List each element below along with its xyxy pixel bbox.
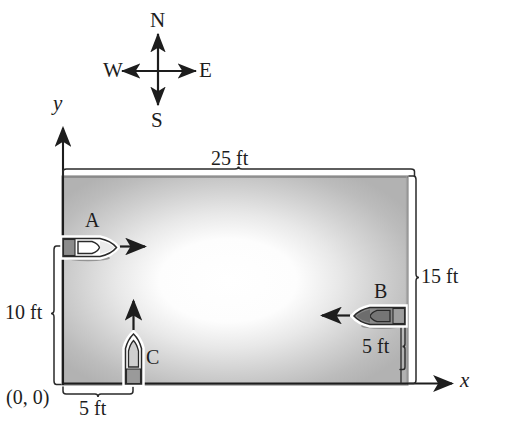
- compass-label-north: N: [150, 10, 165, 31]
- pool-water-area: [62, 176, 408, 385]
- compass-label-south: S: [151, 110, 163, 131]
- brace-bottom-5ft: [63, 387, 133, 397]
- diagram-svg: [0, 0, 505, 435]
- dimension-right-height: 15 ft: [421, 266, 458, 286]
- dimension-top-width: 25 ft: [211, 148, 248, 168]
- compass-rose: [122, 34, 196, 105]
- dimension-left-height: 10 ft: [5, 302, 42, 322]
- boat-b-label: B: [374, 281, 387, 301]
- brace-right-15ft: [409, 176, 419, 384]
- compass-label-east: E: [199, 60, 212, 81]
- dimension-boatb-offset: 5 ft: [362, 336, 389, 356]
- brace-left-10ft: [51, 246, 61, 385]
- boat-c-label: C: [146, 347, 159, 367]
- y-axis-label: y: [53, 93, 62, 114]
- dimension-bottom-width: 5 ft: [79, 398, 106, 418]
- x-axis-label: x: [460, 370, 469, 391]
- boat-a-label: A: [85, 210, 99, 230]
- figure-canvas: N S E W y x (0, 0) 25 ft 15 ft 10 ft 5 f…: [0, 0, 505, 435]
- compass-label-west: W: [103, 60, 123, 81]
- origin-label: (0, 0): [6, 387, 49, 407]
